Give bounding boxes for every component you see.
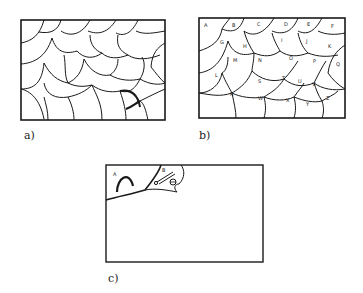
svg-text:L: L (215, 72, 218, 78)
svg-text:N: N (258, 57, 262, 63)
svg-text:J: J (305, 38, 307, 44)
svg-text:W: W (258, 95, 263, 101)
svg-text:D: D (284, 21, 288, 27)
panel-b: A B C D E F G H I J K L M N O P Q R S T … (198, 17, 346, 119)
svg-text:F: F (331, 23, 334, 29)
svg-text:E: E (307, 21, 310, 27)
svg-text:V: V (312, 81, 316, 87)
caption-a: a) (24, 129, 35, 142)
svg-text:B: B (162, 167, 166, 173)
svg-text:K: K (328, 43, 332, 49)
svg-text:Z: Z (326, 95, 330, 101)
svg-text:B: B (232, 22, 236, 28)
caption-c: c) (108, 272, 118, 285)
svg-text:S: S (258, 78, 261, 84)
tessellation-labeled: A B C D E F G H I J K L M N O P Q R S T … (198, 17, 346, 119)
svg-text:H: H (243, 43, 247, 49)
svg-text:Q: Q (336, 61, 340, 67)
svg-text:M: M (233, 57, 237, 63)
svg-text:C: C (257, 21, 261, 27)
tessellation-unlabeled (20, 19, 166, 121)
svg-text:X: X (286, 97, 290, 103)
svg-text:I: I (281, 37, 282, 43)
svg-text:R: R (230, 91, 234, 97)
caption-b: b) (199, 129, 210, 142)
svg-text:U: U (298, 78, 302, 84)
svg-text:P: P (313, 58, 316, 64)
panel-a (20, 19, 166, 121)
svg-text:O: O (289, 55, 293, 61)
svg-text:A: A (113, 171, 117, 177)
svg-text:Y: Y (305, 101, 310, 107)
svg-text:G: G (220, 39, 224, 45)
svg-text:A: A (204, 22, 208, 28)
partial-tessellation: A B (105, 164, 265, 264)
panel-c: A B (105, 164, 265, 264)
